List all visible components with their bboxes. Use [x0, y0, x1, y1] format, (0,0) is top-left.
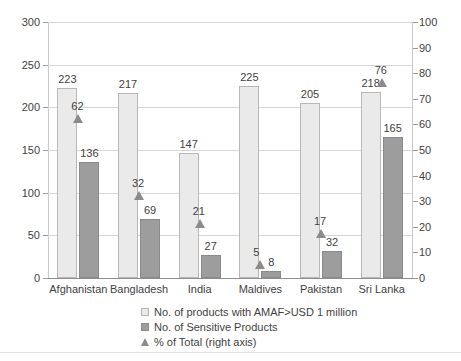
bar-value-label: 225	[229, 72, 269, 83]
left-axis-tick-mark	[43, 235, 48, 236]
legend-item[interactable]: No. of Sensitive Products	[141, 320, 357, 334]
left-axis-tick-label: 0	[0, 273, 40, 284]
bar-sensitive-products	[261, 271, 281, 278]
legend-item[interactable]: % of Total (right axis)	[141, 335, 357, 349]
legend-label: No. of Sensitive Products	[154, 320, 278, 334]
gridline	[48, 235, 412, 236]
chart-legend: No. of products with AMAF>USD 1 millionN…	[141, 305, 357, 350]
bar-sensitive-products	[383, 137, 403, 278]
marker-value-label: 32	[132, 178, 144, 189]
left-axis-tick-mark	[43, 150, 48, 151]
gridline	[48, 278, 412, 279]
right-axis-tick-mark	[413, 201, 418, 202]
right-axis-tick-label: 100	[419, 17, 437, 28]
marker-percent-of-total	[377, 78, 387, 87]
bar-sensitive-products	[140, 219, 160, 278]
gridline	[48, 193, 412, 194]
left-axis-tick-label: 300	[0, 17, 40, 28]
right-axis-tick-label: 60	[419, 119, 431, 130]
bar-value-label: 147	[169, 139, 209, 150]
bar-products-amaf	[300, 103, 320, 278]
bar-sensitive-products	[79, 162, 99, 278]
left-axis-tick-mark	[43, 107, 48, 108]
right-axis-tick-mark	[413, 99, 418, 100]
right-axis-tick-mark	[413, 73, 418, 74]
x-axis-category-label: Sri Lanka	[342, 283, 422, 295]
right-axis-tick-label: 10	[419, 247, 431, 258]
right-axis-tick-label: 50	[419, 145, 431, 156]
bar-sensitive-products	[201, 255, 221, 278]
bar-value-label: 223	[47, 74, 87, 85]
gridline	[48, 22, 412, 23]
bottom-divider	[0, 352, 461, 353]
marker-value-label: 76	[375, 65, 387, 76]
marker-value-label: 17	[314, 216, 326, 227]
right-axis-tick-label: 80	[419, 68, 431, 79]
marker-value-label: 21	[193, 206, 205, 217]
marker-percent-of-total	[316, 229, 326, 238]
marker-value-label: 5	[253, 247, 259, 258]
right-axis-tick-mark	[413, 227, 418, 228]
marker-percent-of-total	[134, 191, 144, 200]
dark-square-swatch-icon	[141, 323, 149, 331]
marker-percent-of-total	[255, 260, 265, 269]
left-axis-tick-mark	[43, 193, 48, 194]
right-axis-tick-mark	[413, 22, 418, 23]
marker-value-label: 62	[71, 101, 83, 112]
bar-value-label: 69	[130, 205, 170, 216]
gridline	[48, 65, 412, 66]
right-axis-tick-mark	[413, 48, 418, 49]
right-axis-tick-mark	[413, 252, 418, 253]
left-axis-tick-mark	[43, 278, 48, 279]
chart-container: 2231366221769321472721225852053217218165…	[0, 0, 461, 361]
legend-item[interactable]: No. of products with AMAF>USD 1 million	[141, 305, 357, 319]
bar-value-label: 165	[373, 123, 413, 134]
bar-value-label: 205	[290, 89, 330, 100]
triangle-marker-icon	[141, 338, 149, 346]
left-axis-tick-label: 250	[0, 60, 40, 71]
left-axis-tick-label: 150	[0, 145, 40, 156]
right-axis-tick-label: 30	[419, 196, 431, 207]
right-axis-tick-label: 90	[419, 43, 431, 54]
left-axis-tick-mark	[43, 65, 48, 66]
bar-products-amaf	[361, 92, 381, 278]
left-axis-tick-label: 200	[0, 102, 40, 113]
legend-label: % of Total (right axis)	[154, 335, 257, 349]
bar-sensitive-products	[322, 251, 342, 278]
bar-value-label: 136	[69, 148, 109, 159]
bar-value-label: 27	[191, 241, 231, 252]
plot-area: 2231366221769321472721225852053217218165…	[48, 22, 412, 278]
marker-percent-of-total	[73, 114, 83, 123]
right-axis-tick-mark	[413, 124, 418, 125]
right-axis-tick-mark	[413, 176, 418, 177]
left-axis-tick-label: 100	[0, 188, 40, 199]
bar-value-label: 217	[108, 79, 148, 90]
right-axis-tick-label: 70	[419, 94, 431, 105]
left-axis-tick-label: 50	[0, 230, 40, 241]
marker-percent-of-total	[195, 219, 205, 228]
left-axis-tick-mark	[43, 22, 48, 23]
light-square-swatch-icon	[141, 308, 149, 316]
right-axis-tick-mark	[413, 150, 418, 151]
right-axis-tick-label: 20	[419, 222, 431, 233]
right-axis-tick-mark	[413, 278, 418, 279]
gridline	[48, 107, 412, 108]
legend-label: No. of products with AMAF>USD 1 million	[154, 305, 357, 319]
right-axis-tick-label: 40	[419, 171, 431, 182]
